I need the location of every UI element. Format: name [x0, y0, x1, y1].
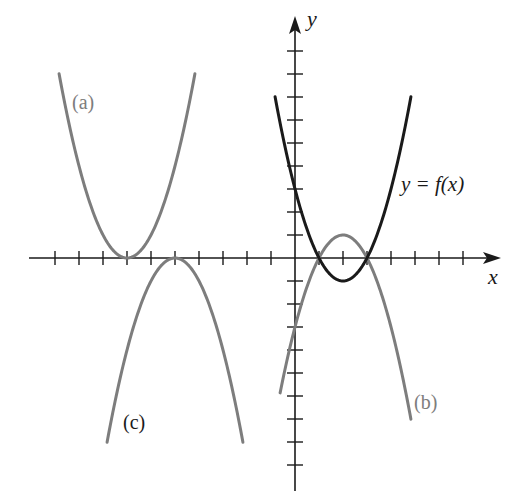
function-transformations-graph [0, 0, 514, 502]
curve-c-label: (c) [123, 412, 145, 432]
y-axis-label: y [307, 8, 317, 30]
x-axis-label: x [488, 266, 498, 288]
curve-b-label: (b) [414, 392, 437, 412]
curve-a-label: (a) [72, 92, 94, 112]
coordinate-axes [29, 16, 501, 491]
f-curve-label: y = f(x) [401, 174, 464, 195]
